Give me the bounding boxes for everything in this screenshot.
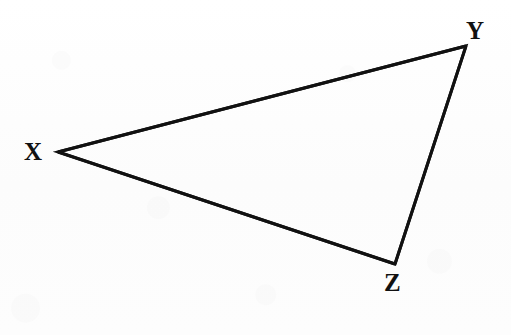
edge-xy [58, 46, 466, 152]
vertex-label-y: Y [466, 18, 484, 43]
edge-zx [58, 152, 395, 264]
triangle-diagram [0, 0, 511, 335]
vertex-label-x: X [24, 139, 42, 164]
geometry-figure-canvas: X Y Z [0, 0, 511, 335]
vertex-label-z: Z [384, 270, 401, 295]
edge-yz [395, 46, 466, 264]
